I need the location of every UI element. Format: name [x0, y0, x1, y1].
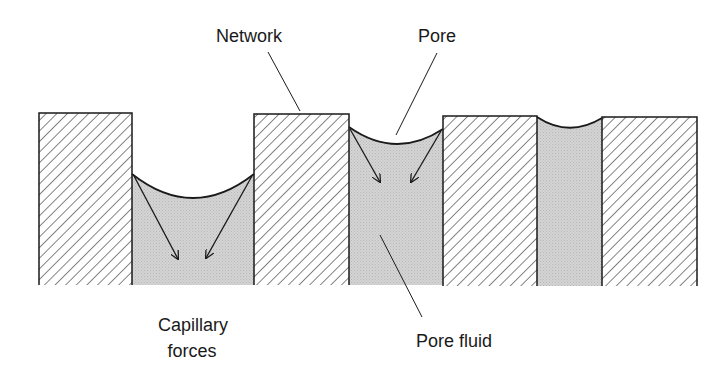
network-block-3: [443, 116, 537, 286]
pore-leader-line: [396, 53, 437, 135]
network-label: Network: [216, 26, 283, 46]
network-leader-line: [268, 52, 300, 111]
capillary-pore-diagram: Network Pore Capillary forces Pore fluid: [0, 0, 728, 374]
capillary-forces-label-line1: Capillary: [158, 315, 228, 335]
pore-fluid-region-1: [132, 174, 254, 285]
pore-fluid-label: Pore fluid: [416, 331, 492, 351]
network-block-4: [602, 117, 697, 286]
network-block-1: [39, 113, 132, 285]
pore-label: Pore: [418, 26, 456, 46]
capillary-forces-label-line2: forces: [167, 341, 216, 361]
network-block-2: [254, 114, 349, 285]
pore-fluid-region-3: [537, 117, 602, 286]
